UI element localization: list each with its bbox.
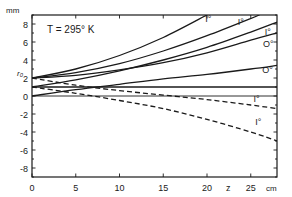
x-axis-label: z <box>226 183 231 193</box>
y-tick-label: -4 <box>20 128 28 138</box>
x-tick-label: 10 <box>114 183 124 193</box>
y-tick-label: 0 <box>23 92 28 102</box>
x-tick-label: 0 <box>29 183 34 193</box>
chart: -8-6-4-2024680510152025 I°I°I°O°O°I°I° T… <box>0 0 292 197</box>
curve-label: I° <box>238 17 245 27</box>
x-tick-label: 20 <box>202 183 212 193</box>
y-tick-label: 2 <box>23 74 28 84</box>
curve-dashed <box>32 78 277 109</box>
curve-label: O° <box>262 65 273 75</box>
curve-label: I° <box>265 27 272 37</box>
x-tick-label: 15 <box>158 183 168 193</box>
y-tick-label: 4 <box>23 56 28 66</box>
curve-label: I° <box>253 94 260 104</box>
y-unit-label: mm <box>6 6 20 15</box>
y-tick-label: -6 <box>20 146 28 156</box>
curve-label: O° <box>263 39 274 49</box>
x-tick-label: 25 <box>246 183 256 193</box>
y-tick-label: 8 <box>23 20 28 30</box>
y-tick-label: -2 <box>20 110 28 120</box>
x-unit-label: cm <box>266 184 277 193</box>
temperature-annotation: T = 295° K <box>47 24 95 35</box>
y-tick-label: 6 <box>23 38 28 48</box>
curve-label: I° <box>255 117 262 127</box>
y-axis-label: r₀ <box>17 69 24 78</box>
curve-label: I° <box>205 14 212 24</box>
curve-dashed <box>32 87 277 141</box>
y-tick-label: -8 <box>20 164 28 174</box>
x-tick-label: 5 <box>73 183 78 193</box>
